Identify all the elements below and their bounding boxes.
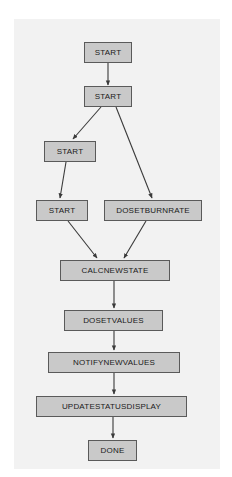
node-label: START: [49, 207, 75, 215]
node-label: DONE: [101, 447, 125, 455]
node-start4[interactable]: START: [36, 200, 88, 221]
edge-dosetburnrate-to-calcnewstate: [124, 221, 146, 258]
node-label: DOSETBURNRATE: [116, 207, 190, 215]
node-start3[interactable]: START: [44, 141, 96, 162]
edge-start2-to-start3: [73, 107, 101, 139]
node-label: START: [95, 49, 121, 57]
node-calcnewstate[interactable]: CALCNEWSTATE: [60, 260, 170, 281]
node-updatestatusdisplay[interactable]: UPDATESTATUSDISPLAY: [36, 396, 187, 417]
node-label: UPDATESTATUSDISPLAY: [62, 403, 161, 411]
node-dosetburnrate[interactable]: DOSETBURNRATE: [104, 200, 202, 221]
node-label: DOSETVALUES: [83, 317, 144, 325]
node-label: NOTIFYNEWVALUES: [73, 359, 155, 367]
edge-start4-to-calcnewstate: [68, 221, 97, 258]
flowchart-canvas: STARTSTARTSTARTSTARTDOSETBURNRATECALCNEW…: [0, 0, 232, 477]
node-dosetvalues[interactable]: DOSETVALUES: [64, 310, 163, 331]
node-notifynewvalues[interactable]: NOTIFYNEWVALUES: [48, 352, 180, 373]
node-label: START: [95, 93, 121, 101]
edges-group: [60, 63, 152, 438]
node-done[interactable]: DONE: [88, 440, 137, 461]
edge-start3-to-start4: [60, 162, 66, 198]
node-start2[interactable]: START: [84, 86, 132, 107]
node-label: CALCNEWSTATE: [82, 267, 149, 275]
node-label: START: [57, 148, 83, 156]
node-start1[interactable]: START: [84, 42, 132, 63]
edge-start2-to-dosetburnrate: [116, 107, 152, 198]
